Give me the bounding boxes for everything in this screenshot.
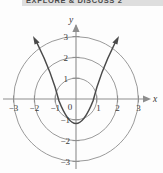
x-tick-label--1: −1 (50, 103, 60, 113)
x-axis-arrow-icon (143, 95, 151, 102)
y-tick-label-2: 2 (64, 53, 69, 63)
x-tick-label-3: 3 (136, 103, 141, 113)
y-tick-label-1: 1 (64, 74, 69, 84)
parabola-left-arrow-icon (33, 36, 40, 45)
graph-svg: −3 −2 −1 1 2 3 3 2 1 −1 −2 −3 0 x y (0, 11, 163, 173)
x-tick-label--3: −3 (9, 103, 19, 113)
y-tick-label-3: 3 (64, 32, 69, 42)
y-tick-label--3: −3 (60, 157, 70, 167)
x-tick-label-1: 1 (96, 103, 101, 113)
y-tick-label--1: −1 (60, 115, 70, 125)
x-tick-label--2: −2 (30, 103, 40, 113)
parabola-right-arrow-icon (112, 36, 119, 45)
header-banner: EXPLORE & DISCUSS 2 (22, 0, 163, 6)
x-axis-label: x (152, 94, 158, 104)
y-axis-arrow-icon (72, 24, 79, 32)
origin-label: 0 (68, 102, 73, 112)
header-banner-text: EXPLORE & DISCUSS 2 (26, 0, 122, 6)
y-axis-label: y (68, 15, 74, 25)
x-tick-label-2: 2 (115, 103, 120, 113)
y-tick-label--2: −2 (60, 136, 70, 146)
coordinate-plane-figure: −3 −2 −1 1 2 3 3 2 1 −1 −2 −3 0 x y (0, 11, 163, 173)
figure-page: EXPLORE & DISCUSS 2 (0, 0, 163, 173)
